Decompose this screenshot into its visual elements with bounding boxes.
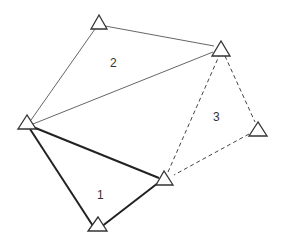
- triangle-label-1: 1: [97, 188, 104, 202]
- edge-f-e: [101, 183, 158, 227]
- figure-1-edges: [30, 127, 159, 227]
- edge-d-e: [174, 134, 249, 175]
- triangle-label-2: 2: [110, 56, 117, 70]
- edge-a-b: [105, 26, 214, 46]
- edge-b-d: [225, 56, 255, 122]
- edge-c-f: [30, 129, 93, 226]
- figure-3-edges: [168, 56, 255, 175]
- stations: [18, 15, 267, 231]
- diagram-svg: 2 3 1: [0, 0, 283, 244]
- figure-2-edges: [31, 26, 214, 124]
- edge-c-b: [33, 52, 213, 124]
- edge-a-c: [31, 29, 95, 120]
- triangulation-diagram: 2 3 1: [0, 0, 283, 244]
- station-d-icon: [249, 122, 267, 136]
- station-a-icon: [91, 15, 107, 29]
- triangle-label-3: 3: [213, 110, 220, 124]
- edge-c-e: [33, 127, 159, 178]
- station-b-icon: [212, 41, 230, 56]
